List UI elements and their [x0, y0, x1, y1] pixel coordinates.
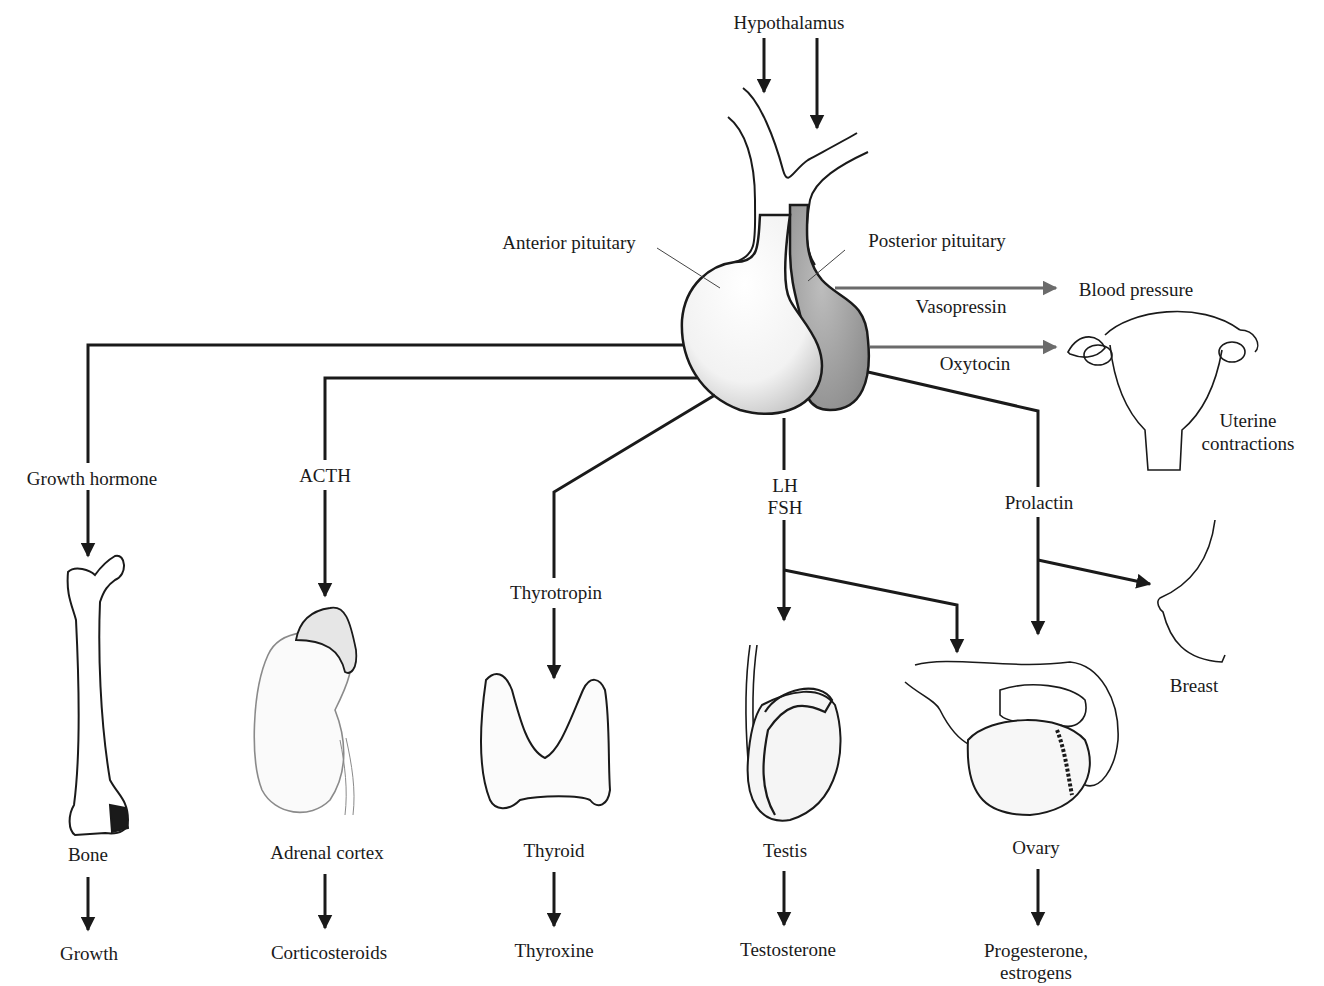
oxytocin-label: Oxytocin: [938, 352, 1013, 375]
breast-label: Breast: [1168, 674, 1221, 697]
posterior-pituitary-label: Posterior pituitary: [866, 229, 1008, 252]
anterior-output-lines: [88, 345, 1150, 678]
thyroxine-label: Thyroxine: [512, 939, 595, 962]
testosterone-label: Testosterone: [738, 938, 838, 961]
blood-pressure-label: Blood pressure: [1077, 278, 1196, 301]
acth-label: ACTH: [297, 464, 353, 487]
contractions-label: contractions: [1200, 432, 1297, 455]
testis-label: Testis: [761, 839, 809, 862]
uterine-label: Uterine: [1218, 409, 1279, 432]
thyrotropin-label: Thyrotropin: [508, 581, 604, 604]
thyroid-illustration: [481, 674, 610, 808]
ovary-label: Ovary: [1010, 836, 1061, 859]
pituitary-gland: [657, 88, 869, 414]
progesterone-label: Progesterone,: [982, 939, 1090, 962]
bone-label: Bone: [66, 843, 110, 866]
prolactin-label: Prolactin: [1003, 491, 1076, 514]
thyroid-label: Thyroid: [521, 839, 586, 862]
pituitary-diagram: [0, 0, 1324, 986]
hypothalamus-arrows: [764, 38, 817, 128]
breast-illustration: [1158, 520, 1225, 662]
growth-hormone-label: Growth hormone: [25, 467, 159, 490]
kidney-adrenal-illustration: [254, 608, 356, 815]
anterior-pituitary-label: Anterior pituitary: [500, 231, 638, 254]
bone-illustration: [68, 556, 128, 835]
vasopressin-label: Vasopressin: [914, 295, 1009, 318]
testis-illustration: [746, 645, 841, 821]
corticosteroids-label: Corticosteroids: [269, 941, 389, 964]
adrenal-cortex-label: Adrenal cortex: [268, 841, 385, 864]
product-arrows: [88, 869, 1038, 930]
ovary-illustration: [905, 661, 1118, 815]
hypothalamus-label: Hypothalamus: [732, 11, 847, 34]
growth-label: Growth: [58, 942, 120, 965]
estrogens-label: estrogens: [998, 961, 1074, 984]
fsh-label: FSH: [766, 496, 805, 519]
lh-label: LH: [770, 474, 799, 497]
